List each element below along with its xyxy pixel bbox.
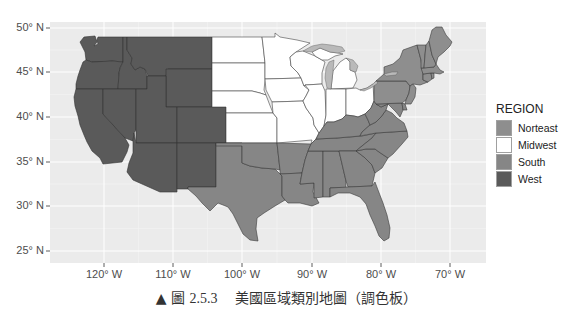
y-tick-label-40n: 40° N xyxy=(4,110,44,122)
legend-label: West xyxy=(518,173,542,185)
x-tick-label-110w: 110° W xyxy=(148,268,198,280)
y-tick-label-25n: 25° N xyxy=(4,244,44,256)
legend-item-northeast[interactable]: Norteast xyxy=(496,119,558,136)
triangle-icon: ▲ xyxy=(156,290,167,306)
legend-label: Midwest xyxy=(518,139,557,151)
legend-label: South xyxy=(518,156,545,168)
x-tick-label-80w: 80° W xyxy=(356,268,406,280)
x-tick-label-100w: 100° W xyxy=(217,268,267,280)
legend-key-south xyxy=(496,154,512,170)
legend-item-midwest[interactable]: Midwest xyxy=(496,136,558,153)
y-tick-label-30n: 30° N xyxy=(4,199,44,211)
state-north-dakota[interactable] xyxy=(212,37,265,63)
caption-text: 美國區域類別地圖（調色板） xyxy=(235,290,417,306)
state-oregon[interactable] xyxy=(76,60,123,89)
legend-item-west[interactable]: West xyxy=(496,170,558,187)
legend-item-south[interactable]: South xyxy=(496,153,558,170)
legend-title: REGION xyxy=(496,102,558,116)
y-tick-label-45n: 45° N xyxy=(4,65,44,77)
state-colorado[interactable] xyxy=(177,107,226,143)
figure: 50° N 45° N 40° N 35° N 30° N 25° N 120°… xyxy=(0,0,573,317)
state-pennsylvania[interactable] xyxy=(374,81,410,104)
legend-label: Norteast xyxy=(518,122,558,134)
state-washington[interactable] xyxy=(80,36,123,62)
legend-key-midwest xyxy=(496,137,512,153)
state-south-dakota[interactable] xyxy=(212,63,266,95)
y-tick-label-35n: 35° N xyxy=(4,155,44,167)
x-tick-label-120w: 120° W xyxy=(79,268,129,280)
state-wyoming[interactable] xyxy=(166,69,212,107)
x-tick-label-90w: 90° W xyxy=(287,268,337,280)
caption-prefix: 圖 xyxy=(171,290,185,306)
legend-key-west xyxy=(496,171,512,187)
state-kansas[interactable] xyxy=(226,113,277,143)
legend-key-northeast xyxy=(496,120,512,136)
y-tick-label-50n: 50° N xyxy=(4,21,44,33)
state-new-mexico[interactable] xyxy=(177,143,216,189)
legend: REGION Norteast Midwest South West xyxy=(496,102,558,187)
caption-number: 2.5.3 xyxy=(189,291,217,306)
figure-caption: ▲ 圖 2.5.3 美國區域類別地圖（調色板） xyxy=(0,287,573,307)
x-tick-label-70w: 70° W xyxy=(425,268,475,280)
